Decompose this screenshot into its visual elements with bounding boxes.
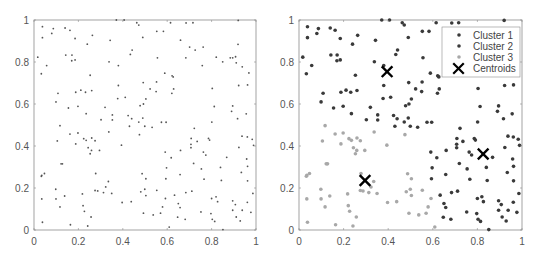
cluster-1-point [335, 59, 339, 63]
data-point [85, 139, 87, 141]
data-point [189, 46, 191, 48]
data-point [77, 105, 79, 107]
data-point [145, 178, 147, 180]
data-point [115, 19, 117, 21]
data-point [231, 110, 233, 112]
data-point [68, 107, 70, 109]
cluster-1-point [317, 27, 321, 31]
y-tick-label: 0.2 [280, 183, 294, 194]
cluster-2-point [506, 134, 510, 138]
legend-marker-cluster-3 [457, 55, 461, 59]
data-point [46, 65, 48, 67]
x-tick-label: 0 [296, 236, 302, 247]
x-tick-label: 1 [519, 236, 525, 247]
cluster-1-point [393, 124, 397, 128]
data-point [117, 65, 119, 67]
data-point [192, 22, 194, 24]
data-point [100, 119, 102, 121]
data-point [203, 178, 205, 180]
data-point [232, 105, 234, 107]
cluster-1-point [436, 91, 440, 95]
data-point [156, 81, 158, 83]
data-point [201, 65, 203, 67]
left-scatter-plot: 00.20.40.60.8100.20.40.60.81 [15, 15, 259, 248]
data-point [69, 133, 71, 135]
data-point [71, 60, 73, 62]
cluster-3-point [346, 204, 350, 208]
data-point [136, 22, 138, 24]
cluster-1-point [457, 21, 461, 25]
cluster-1-point [402, 23, 406, 27]
data-point [193, 127, 195, 129]
cluster-1-point [350, 112, 354, 116]
cluster-3-point [359, 139, 363, 143]
cluster-2-point [455, 143, 459, 147]
cluster-3-point [305, 197, 309, 201]
cluster-2-point [435, 156, 439, 160]
x-tick-label: 0.8 [205, 236, 219, 247]
data-point [103, 192, 105, 194]
data-point [164, 72, 166, 74]
data-point [166, 167, 168, 169]
data-point [105, 186, 107, 188]
cluster-3-point [319, 187, 323, 191]
legend: Cluster 1 Cluster 2 Cluster 3 Centroids [442, 27, 520, 77]
cluster-2-point [497, 208, 501, 212]
data-point [104, 106, 106, 108]
data-point [144, 125, 146, 127]
cluster-2-point [511, 157, 515, 161]
cluster-2-point [500, 215, 504, 219]
data-point [83, 210, 85, 212]
cluster-1-point [305, 72, 309, 76]
data-point [142, 117, 144, 119]
data-point [71, 54, 73, 56]
cluster-1-point [365, 118, 369, 122]
data-point [129, 54, 131, 56]
cluster-1-point [395, 117, 399, 121]
cluster-3-point [350, 139, 354, 143]
cluster-3-point [372, 180, 376, 184]
data-point [42, 26, 44, 28]
data-point [156, 189, 158, 191]
data-point [83, 138, 85, 140]
data-point [210, 213, 212, 215]
cluster-2-point [485, 166, 489, 170]
cluster-1-point [406, 116, 410, 120]
cluster-3-point [352, 146, 356, 150]
data-point [65, 54, 67, 56]
cluster-1-point [356, 34, 360, 38]
data-point [138, 121, 140, 123]
cluster-1-point [310, 64, 314, 68]
cluster-2-point [491, 156, 495, 160]
cluster-2-point [496, 110, 500, 114]
data-point [196, 140, 198, 142]
data-point [40, 175, 42, 177]
data-point [190, 147, 192, 149]
data-point [157, 57, 159, 59]
data-point [215, 56, 217, 58]
cluster-1-point [402, 120, 406, 124]
data-point [246, 158, 248, 160]
cluster-1-point [408, 124, 412, 128]
cluster-1-point [376, 118, 380, 122]
data-point [77, 132, 79, 134]
data-point [109, 39, 111, 41]
data-point [251, 138, 253, 140]
cluster-2-point [444, 173, 448, 177]
data-point [42, 37, 44, 39]
x-tick-label: 1 [253, 236, 259, 247]
cluster-2-point [441, 215, 445, 219]
cluster-1-point [321, 91, 325, 95]
data-point [144, 188, 146, 190]
x-tick-label: 0.2 [337, 236, 351, 247]
data-point [215, 196, 217, 198]
data-point [172, 76, 174, 78]
data-point [86, 43, 88, 45]
cluster-2-point [430, 120, 434, 124]
cluster-2-point [476, 120, 480, 124]
data-point [185, 22, 187, 24]
data-point [40, 73, 42, 75]
data-point [235, 216, 237, 218]
data-point [145, 195, 147, 197]
data-point [91, 150, 93, 152]
